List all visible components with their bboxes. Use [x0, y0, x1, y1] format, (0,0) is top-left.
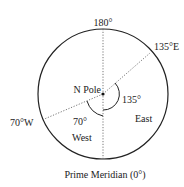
meridian-135e-line [103, 53, 150, 94]
polar-longitude-diagram: 180° 135°E 70°W N Pole 135° 70° East Wes… [0, 0, 184, 187]
label-180: 180° [94, 17, 113, 28]
angle-arc-70 [87, 101, 103, 116]
label-angle-70: 70° [73, 116, 87, 127]
diagram-canvas: 180° 135°E 70°W N Pole 135° 70° East Wes… [0, 0, 184, 187]
label-135e: 135°E [154, 41, 179, 52]
label-prime-meridian: Prime Meridian (0°) [64, 169, 145, 181]
label-west: West [72, 132, 92, 143]
north-pole-dot [101, 92, 104, 95]
label-east: East [135, 113, 152, 124]
label-70w: 70°W [10, 117, 34, 128]
angle-arc-135 [103, 83, 119, 110]
label-north-pole: N Pole [74, 84, 102, 95]
label-angle-135: 135° [122, 94, 141, 105]
